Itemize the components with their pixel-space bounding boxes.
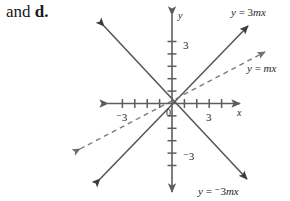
- figure-page: and d.: [0, 0, 290, 201]
- origin-label: 0: [166, 107, 171, 118]
- label-y-mx: y = mx: [246, 62, 277, 74]
- label-y-3mx-mx: mx: [253, 6, 266, 18]
- y-axis-label: y: [177, 10, 183, 21]
- y-tick-label-3: 3: [183, 39, 189, 51]
- label-y-3mx: y = 3mx: [230, 6, 266, 18]
- x-axis-label: x: [236, 107, 242, 118]
- label-y-neg3mx: y = ⁻3mx: [197, 185, 239, 197]
- x-tick-label-neg3: ⁻3: [116, 111, 128, 123]
- label-y-mx-mx: mx: [264, 62, 277, 74]
- label-y-neg3mx-mx: mx: [226, 185, 239, 197]
- x-tick-label-3: 3: [206, 111, 212, 123]
- label-y-mx-eq: =: [252, 62, 264, 74]
- y-tick-label-neg3: ⁻3: [183, 150, 195, 162]
- label-y-neg3mx-coef: ⁻3: [215, 185, 227, 197]
- coordinate-plane-figure: y x 0 3 ⁻3 ⁻3 3 y = 3mx y = mx y = ⁻3mx: [0, 0, 290, 201]
- label-y-neg3mx-eq: =: [203, 185, 215, 197]
- label-y-3mx-eq: =: [236, 6, 248, 18]
